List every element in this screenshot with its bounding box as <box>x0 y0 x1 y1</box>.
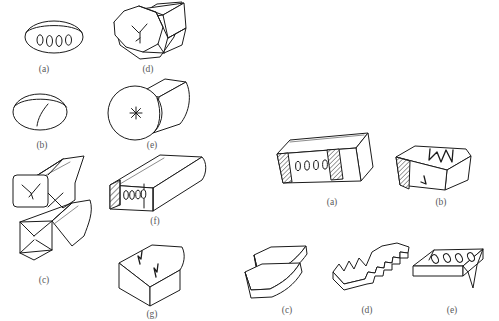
plate-front-face <box>413 266 463 276</box>
void-marker <box>305 161 310 170</box>
right-item-b: (b) <box>396 146 471 208</box>
caption-label: (b) <box>36 140 47 151</box>
right-item-e: (e) <box>413 249 483 316</box>
void-marker <box>47 36 53 47</box>
left-item-g: (g) <box>119 245 184 320</box>
hatched-cut-section <box>110 180 120 209</box>
caption-label: (f) <box>150 216 160 227</box>
defect-diagram-svg: (a) (b) (c) <box>0 0 499 321</box>
starburst-crack-mark <box>130 107 142 119</box>
void-marker <box>314 160 319 169</box>
void-marker <box>141 190 146 199</box>
right-group: (a) (b) (c) (d) <box>245 133 483 316</box>
left-group: (a) (b) (c) <box>13 2 206 320</box>
void-marker <box>37 35 43 45</box>
right-item-c: (c) <box>245 246 307 316</box>
caption-label: (a) <box>39 64 50 75</box>
void-marker <box>323 160 328 169</box>
caption-label: (d) <box>142 64 153 75</box>
void-marker <box>66 35 72 45</box>
left-item-f: (f) <box>110 155 206 227</box>
figure-root: (a) (b) (c) <box>0 0 499 321</box>
caption-label: (d) <box>361 305 372 316</box>
left-item-b: (b) <box>13 94 67 151</box>
void-marker <box>56 36 62 47</box>
void-marker <box>124 191 129 200</box>
left-item-d: (d) <box>114 2 186 75</box>
lower-bar-body <box>52 200 91 246</box>
hatched-cut-section <box>396 157 410 189</box>
void-marker <box>296 161 301 170</box>
left-item-e: (e) <box>108 79 189 151</box>
caption-label: (g) <box>146 309 157 320</box>
upper-bar-end-face <box>13 175 48 207</box>
right-item-d: (d) <box>333 243 409 316</box>
void-marker <box>136 190 141 199</box>
caption-label: (c) <box>39 275 50 286</box>
right-item-a: (a) <box>277 133 373 208</box>
caption-label: (e) <box>147 140 158 151</box>
caption-label: (a) <box>327 197 338 208</box>
void-marker <box>130 191 135 200</box>
left-item-a: (a) <box>25 21 83 75</box>
caption-label: (e) <box>447 305 458 316</box>
caption-label: (c) <box>282 305 293 316</box>
left-item-c: (c) <box>13 156 91 286</box>
caption-label: (b) <box>435 197 446 208</box>
